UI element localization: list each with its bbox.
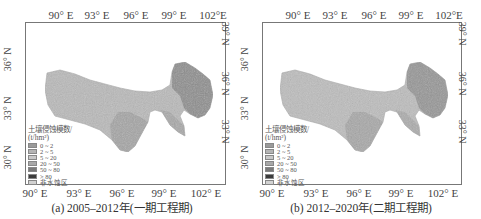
x-tick-top: 102°E	[199, 9, 227, 21]
x-tick-top: 99° E	[399, 9, 424, 21]
x-tick-bottom: 90° E	[260, 187, 285, 199]
legend-title: 土壤侵蚀模数/	[265, 126, 309, 133]
legend-title: 土壤侵蚀模数/	[28, 126, 72, 133]
y-tick-right: 33° N	[220, 120, 231, 144]
panel-b: 90° E 93° E 96° E 99° E 102°E 90° E 93° …	[237, 0, 477, 219]
y-tick-left: 36° N	[239, 48, 250, 72]
x-tick-bottom: 102° E	[191, 187, 221, 199]
y-tick-left: 36° N	[2, 48, 13, 72]
y-tick-left: 33° N	[239, 97, 250, 121]
y-tick-right: 39° N	[220, 22, 231, 46]
y-tick-right: 36° N	[457, 72, 468, 96]
x-tick-bottom: 96° E	[347, 187, 372, 199]
x-tick-top: 90° E	[49, 9, 74, 21]
x-tick-bottom: 93° E	[67, 187, 92, 199]
x-tick-top: 96° E	[124, 9, 149, 21]
legend-unit: (t/hm²)	[28, 134, 72, 141]
legend-unit: (t/hm²)	[265, 134, 309, 141]
x-tick-top: 90° E	[286, 9, 311, 21]
x-tick-bottom: 93° E	[304, 187, 329, 199]
x-tick-top: 96° E	[362, 9, 387, 21]
x-tick-top: 93° E	[85, 9, 110, 21]
x-tick-top: 93° E	[323, 9, 348, 21]
y-tick-right: 33° N	[457, 120, 468, 144]
figure-caption: (b) 2012–2020年(二期工程期)	[290, 199, 432, 215]
x-tick-bottom: 90° E	[23, 187, 48, 199]
x-tick-bottom: 102° E	[428, 187, 458, 199]
y-tick-right: 36° N	[220, 72, 231, 96]
legend-item: 非水蚀区	[28, 179, 72, 185]
legend: 土壤侵蚀模数/ (t/hm²) 0 ~ 2 2 ~ 5 5 ~ 20 20 ~ …	[28, 126, 72, 185]
legend-item: 非水蚀区	[265, 179, 309, 185]
x-tick-top: 99° E	[162, 9, 187, 21]
x-tick-bottom: 99° E	[389, 187, 414, 199]
y-tick-right: 39° N	[457, 22, 468, 46]
legend: 土壤侵蚀模数/ (t/hm²) 0 ~ 2 2 ~ 5 5 ~ 20 20 ~ …	[265, 126, 309, 185]
panel-a: 90° E 93° E 96° E 99° E 102°E 90° E 93° …	[0, 0, 240, 219]
x-tick-bottom: 96° E	[110, 187, 135, 199]
y-tick-left: 33° N	[2, 97, 13, 121]
y-tick-left: 30° N	[2, 146, 13, 170]
figure-caption: (a) 2005–2012年(一期工程期)	[51, 199, 192, 215]
y-tick-left: 30° N	[239, 146, 250, 170]
x-tick-bottom: 99° E	[152, 187, 177, 199]
x-tick-top: 102°E	[435, 9, 463, 21]
